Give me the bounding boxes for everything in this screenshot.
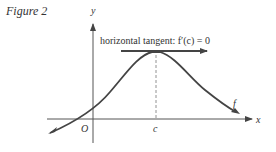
c-tick-label: c: [153, 123, 158, 134]
tangent-diagram: y x O c f horizontal tangent: f′(c) = 0: [0, 0, 276, 152]
curve-f: [50, 52, 236, 133]
y-axis-label: y: [90, 5, 96, 16]
origin-label: O: [81, 123, 88, 134]
curve-label: f: [233, 98, 237, 109]
x-axis-label: x: [255, 114, 261, 125]
tangent-annotation: horizontal tangent: f′(c) = 0: [100, 35, 210, 47]
